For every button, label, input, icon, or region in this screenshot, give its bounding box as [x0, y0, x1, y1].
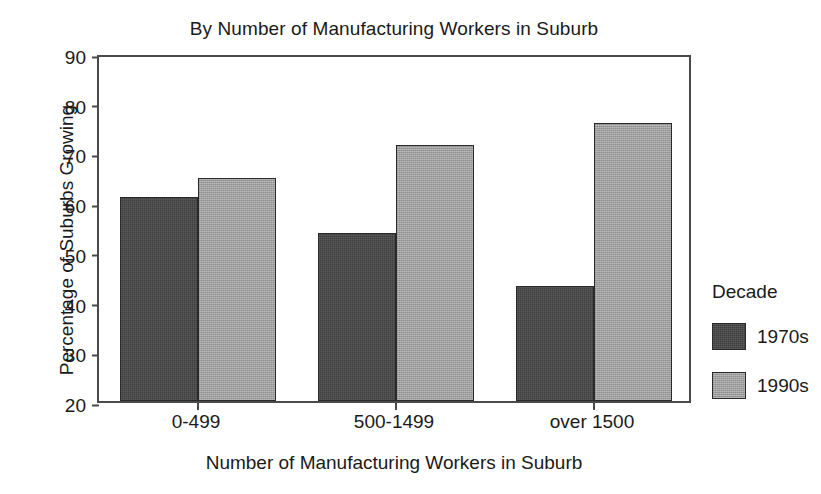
y-axis-tick-label: 40 — [65, 296, 92, 315]
x-axis-tick-mark — [395, 401, 397, 410]
y-axis-tick-label: 50 — [65, 246, 92, 265]
y-axis-tick-label: 70 — [65, 147, 92, 166]
y-axis-tick-label: 20 — [65, 396, 92, 415]
y-axis-tick-mark — [92, 205, 99, 207]
legend: Decade 1970s1990s — [712, 281, 820, 421]
x-axis-tick-mark — [593, 401, 595, 410]
bar-500-1499-1990s — [396, 145, 474, 401]
bar-0-499-1970s — [120, 197, 198, 401]
chart-title: By Number of Manufacturing Workers in Su… — [97, 18, 691, 40]
y-axis-tick: 60 — [65, 197, 99, 216]
plot-area: 9080706050403020 — [97, 55, 691, 403]
bar-0-499-1990s — [198, 178, 276, 401]
y-axis-tick-mark — [92, 155, 99, 157]
legend-label: 1990s — [757, 375, 809, 397]
legend-entry-1990s[interactable]: 1990s — [712, 372, 820, 399]
y-axis-tick-mark — [92, 56, 99, 58]
y-axis-tick-mark — [92, 404, 99, 406]
y-axis-tick: 70 — [65, 147, 99, 166]
chart-figure: By Number of Manufacturing Workers in Su… — [0, 0, 821, 494]
y-axis-tick: 20 — [65, 396, 99, 415]
y-axis-tick-mark — [92, 255, 99, 257]
x-axis-category-label: over 1500 — [550, 411, 635, 433]
bar-over-1500-1970s — [516, 286, 594, 401]
bar-over-1500-1990s — [594, 123, 672, 401]
y-axis-tick-mark — [92, 354, 99, 356]
y-axis-tick: 30 — [65, 346, 99, 365]
y-axis-tick-mark — [92, 106, 99, 108]
y-axis-tick-label: 30 — [65, 346, 92, 365]
legend-entry-1970s[interactable]: 1970s — [712, 323, 820, 350]
y-axis-tick-label: 90 — [65, 48, 92, 67]
x-axis-title: Number of Manufacturing Workers in Subur… — [97, 452, 691, 474]
y-axis-tick: 90 — [65, 48, 99, 67]
legend-swatch-1990s — [712, 372, 746, 399]
y-axis-tick-label: 80 — [65, 97, 92, 116]
x-axis-category-label: 500-1499 — [354, 411, 434, 433]
legend-swatch-1970s — [712, 323, 746, 350]
legend-label: 1970s — [757, 326, 809, 348]
bar-500-1499-1970s — [318, 233, 396, 401]
y-axis-tick: 40 — [65, 296, 99, 315]
x-axis-tick-mark — [197, 401, 199, 410]
x-axis-category-label: 0-499 — [172, 411, 221, 433]
legend-title: Decade — [712, 281, 820, 303]
legend-entries: 1970s1990s — [712, 323, 820, 399]
y-axis-tick-mark — [92, 305, 99, 307]
y-axis-tick: 50 — [65, 246, 99, 265]
y-axis-tick-label: 60 — [65, 197, 92, 216]
y-axis-tick: 80 — [65, 97, 99, 116]
